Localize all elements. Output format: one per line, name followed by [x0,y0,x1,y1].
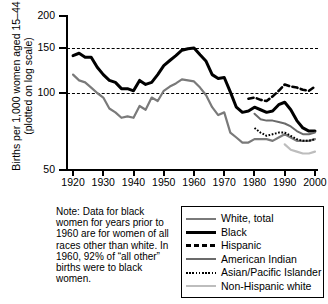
y-tick-label: 50 [29,164,55,174]
y-tick-mark [59,92,67,94]
series-lines [67,16,318,170]
legend-item-label: Black [221,227,247,238]
x-tick-label: 1940 [117,177,151,188]
y-tick-label: 200 [29,10,55,20]
x-tick-label: 1920 [56,177,90,188]
legend-item[interactable]: Hispanic [186,239,320,253]
series-canvas [67,16,318,170]
legend-item[interactable]: Asian/Pacific Islander [186,266,320,280]
legend-item-label: Hispanic [221,240,261,251]
chart-plot-region: Births per 1,000 women aged 15–44 (plott… [0,0,328,190]
legend-item[interactable]: American Indian [186,253,320,267]
x-tick-label: 1980 [237,177,271,188]
x-tick-label: 1990 [268,177,302,188]
x-tick-label: 1960 [177,177,211,188]
legend-line-swatch [186,241,216,251]
legend-line-swatch [186,214,216,224]
y-tick-mark [59,47,67,49]
y-tick-mark [59,15,67,17]
legend-line-swatch [186,227,216,237]
x-tick-label: 1930 [86,177,120,188]
y-tick-mark [59,169,67,171]
x-tick-label: 1970 [207,177,241,188]
legend-item-label: Asian/Pacific Islander [221,267,321,278]
legend-line-swatch [186,281,216,291]
chart-note: Note: Data for black women for years pri… [56,206,177,284]
series-line [285,144,315,153]
y-tick-label: 150 [29,42,55,52]
series-line [248,84,315,101]
chart-figure: Births per 1,000 women aged 15–44 (plott… [0,0,328,304]
legend-item-label: White, total [221,213,274,224]
x-tick-label: 2000 [298,177,328,188]
legend-item[interactable]: White, total [186,212,320,226]
legend-item[interactable]: Black [186,226,320,240]
legend-line-swatch [186,254,216,264]
legend-item[interactable]: Non-Hispanic white [186,280,320,294]
x-tick-label: 1950 [147,177,181,188]
legend-line-swatch [186,268,216,278]
chart-legend: White, totalBlackHispanicAmerican Indian… [181,206,324,298]
legend-item-label: American Indian [221,254,297,265]
y-tick-label: 100 [29,87,55,97]
legend-item-label: Non-Hispanic white [221,281,311,292]
